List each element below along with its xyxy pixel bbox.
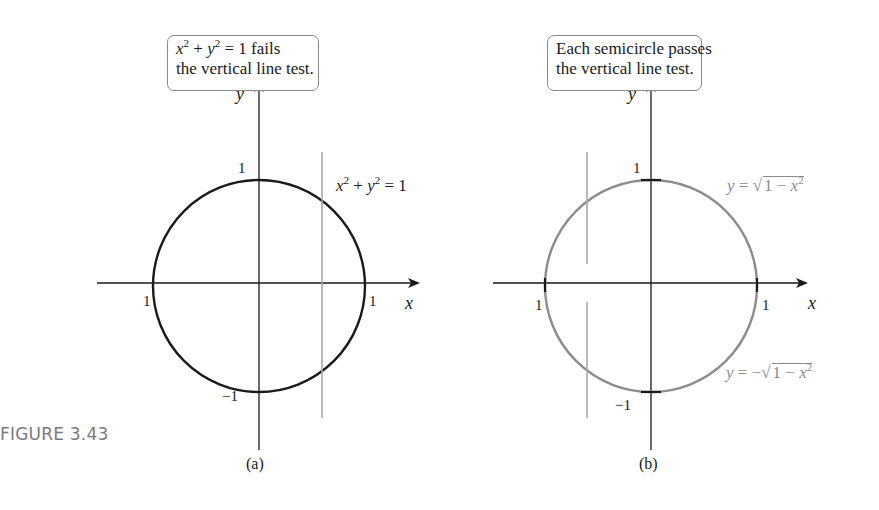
y-axis-label-a: y [236, 84, 244, 105]
tick-x-right-b: 1 [762, 297, 770, 314]
panel-a-graph [97, 82, 418, 450]
callout-b-line1: Each semicircle passes [556, 39, 694, 59]
tick-x-left-a: 1 [143, 293, 151, 310]
subfigure-label-a: (a) [246, 455, 264, 473]
figure-graphics [0, 0, 879, 510]
tick-x-left-b: 1 [535, 297, 543, 314]
lower-semicircle-label: y = −√1 − x2 [726, 363, 812, 383]
subfigure-label-b: (b) [639, 455, 658, 473]
tick-y-bottom-a: −1 [222, 388, 238, 405]
upper-semicircle-label: y = √1 − x2 [727, 176, 804, 196]
tick-y-top-a: 1 [238, 160, 246, 177]
tick-y-top-b: 1 [633, 160, 641, 177]
tick-y-bottom-b: −1 [615, 397, 631, 414]
callout-a-line2: the vertical line test. [176, 59, 311, 79]
x-axis-label-a: x [405, 293, 413, 314]
callout-panel-b: Each semicircle passes the vertical line… [547, 35, 702, 91]
callout-panel-a: x2 + y2 = 1 fails the vertical line test… [167, 35, 319, 91]
curve-label-a: x2 + y2 = 1 [336, 176, 407, 196]
callout-a-line1: x2 + y2 = 1 fails [176, 39, 311, 59]
tick-x-right-a: 1 [369, 293, 377, 310]
sqrt-icon: √ [753, 176, 762, 195]
panel-b-graph [493, 82, 806, 450]
y-axis-label-b: y [628, 84, 636, 105]
figure-number: FIGURE 3.43 [0, 424, 108, 444]
sqrt-icon: √ [761, 363, 770, 382]
x-axis-label-b: x [808, 293, 816, 314]
callout-b-line2: the vertical line test. [556, 59, 694, 79]
